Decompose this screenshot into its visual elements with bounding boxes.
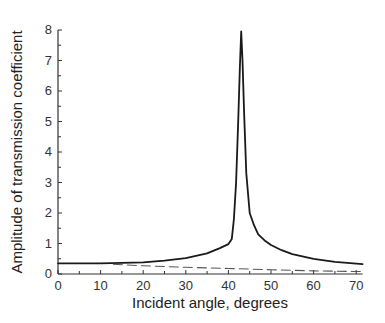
y-axis-ticks: 012345678 — [45, 22, 62, 281]
x-axis-label: Incident angle, degrees — [132, 294, 288, 311]
y-tick-label: 6 — [45, 83, 52, 98]
chart-plot: 010203040506070 012345678 Incident angle… — [0, 0, 385, 323]
x-tick-label: 20 — [136, 278, 150, 293]
x-tick-label: 0 — [54, 278, 61, 293]
solid-curve — [58, 32, 363, 265]
x-tick-label: 10 — [93, 278, 107, 293]
x-tick-label: 60 — [306, 278, 320, 293]
data-series — [58, 32, 363, 272]
y-tick-label: 0 — [45, 266, 52, 281]
x-tick-label: 70 — [349, 278, 363, 293]
dashed-curve — [113, 264, 362, 271]
x-tick-label: 30 — [179, 278, 193, 293]
y-tick-label: 5 — [45, 114, 52, 129]
x-tick-label: 40 — [221, 278, 235, 293]
y-tick-label: 2 — [45, 205, 52, 220]
y-tick-label: 1 — [45, 236, 52, 251]
y-tick-label: 7 — [45, 53, 52, 68]
y-axis-label: Amplitude of transmission coefficient — [8, 30, 25, 274]
x-tick-label: 50 — [264, 278, 278, 293]
y-tick-label: 4 — [45, 144, 52, 159]
axes — [58, 30, 363, 274]
y-tick-label: 8 — [45, 22, 52, 37]
y-tick-label: 3 — [45, 175, 52, 190]
